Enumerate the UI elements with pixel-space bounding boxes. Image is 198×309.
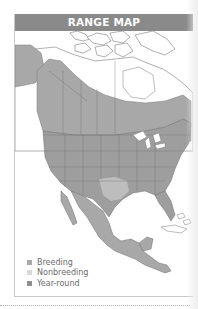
legend-label-nonbreeding: Nonbreeding: [37, 268, 88, 277]
legend-label-breeding: Breeding: [37, 258, 73, 267]
nonbreeding-swatch: [27, 270, 32, 275]
legend-item-nonbreeding: Nonbreeding: [27, 268, 88, 279]
year-round-swatch: [27, 281, 32, 286]
range-map-title: RANGE MAP: [15, 14, 193, 31]
map-legend: Breeding Nonbreeding Year-round: [27, 257, 88, 289]
legend-item-breeding: Breeding: [27, 257, 88, 268]
legend-item-year-round: Year-round: [27, 278, 88, 289]
range-map-card: RANGE MAP: [14, 14, 193, 297]
dotted-divider: [0, 305, 190, 306]
breeding-swatch: [27, 260, 32, 265]
arctic-islands: [70, 31, 175, 57]
page-edge-shadow: [186, 0, 198, 309]
legend-label-year-round: Year-round: [37, 279, 80, 288]
